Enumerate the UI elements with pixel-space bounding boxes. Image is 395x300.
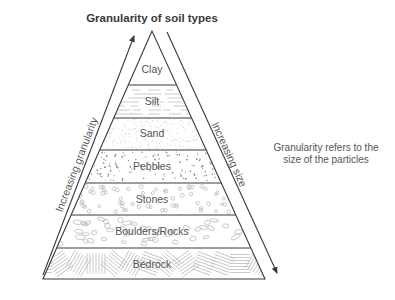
- layer-label-clay: Clay: [141, 63, 163, 75]
- layer-label-bedrock: Bedrock: [133, 258, 172, 270]
- layer-label-pebbles: Pebbles: [133, 160, 171, 172]
- soil-granularity-diagram: Granularity of soil types Clay Silt Sand…: [0, 0, 395, 300]
- layer-label-sand: Sand: [140, 127, 165, 139]
- diagram-title: Granularity of soil types: [86, 12, 218, 24]
- increasing-size-label: Increasing size: [210, 120, 250, 189]
- granularity-note-line-2: size of the particles: [283, 154, 369, 165]
- increasing-granularity-arrow: [43, 36, 134, 275]
- layer-label-silt: Silt: [145, 95, 160, 107]
- layer-label-stones: Stones: [136, 193, 169, 205]
- granularity-note-line-1: Granularity refers to the: [273, 142, 378, 153]
- layer-label-boulders-rocks: Boulders/Rocks: [115, 225, 189, 237]
